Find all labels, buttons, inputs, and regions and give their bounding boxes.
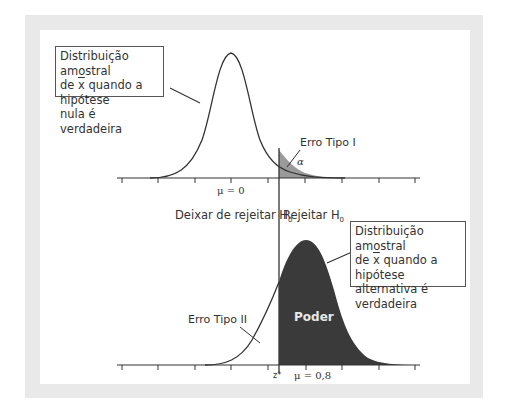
alt-mean-label: μ = 0,8 xyxy=(294,370,331,381)
power-label: Poder xyxy=(294,310,334,324)
alpha-region xyxy=(279,150,340,178)
callout-line: Distribuição amostral xyxy=(60,49,159,78)
callout-line: nula é verdadeira xyxy=(60,107,159,136)
callout-line: Distribuição amostral xyxy=(355,224,461,253)
null-mean-label: μ = 0 xyxy=(217,185,245,196)
callout-line: de x quando a hipótese xyxy=(355,253,461,282)
null-callout-pointer xyxy=(170,88,200,103)
top-ticks xyxy=(122,178,415,183)
bottom-ticks xyxy=(122,365,415,370)
reject-label: Rejeitar H0 xyxy=(283,208,344,224)
callout-line: de x quando a hipótese xyxy=(60,78,159,107)
alt-callout-pointer xyxy=(327,252,352,263)
null-curve xyxy=(150,53,345,178)
fail-to-reject-label: Deixar de rejeitar H0 xyxy=(175,208,292,224)
alpha-label: α xyxy=(297,156,304,167)
callout-line: alternativa é xyxy=(355,282,461,297)
callout-line: verdadeira xyxy=(355,297,461,312)
z-star-label: z* xyxy=(273,371,281,380)
alternative-distribution-callout: Distribuição amostral de x quando a hipó… xyxy=(350,221,466,287)
null-distribution-callout: Distribuição amostral de x quando a hipó… xyxy=(55,46,164,97)
type1-error-label: Erro Tipo I xyxy=(300,136,356,149)
type2-error-label: Erro Tipo II xyxy=(188,313,247,326)
